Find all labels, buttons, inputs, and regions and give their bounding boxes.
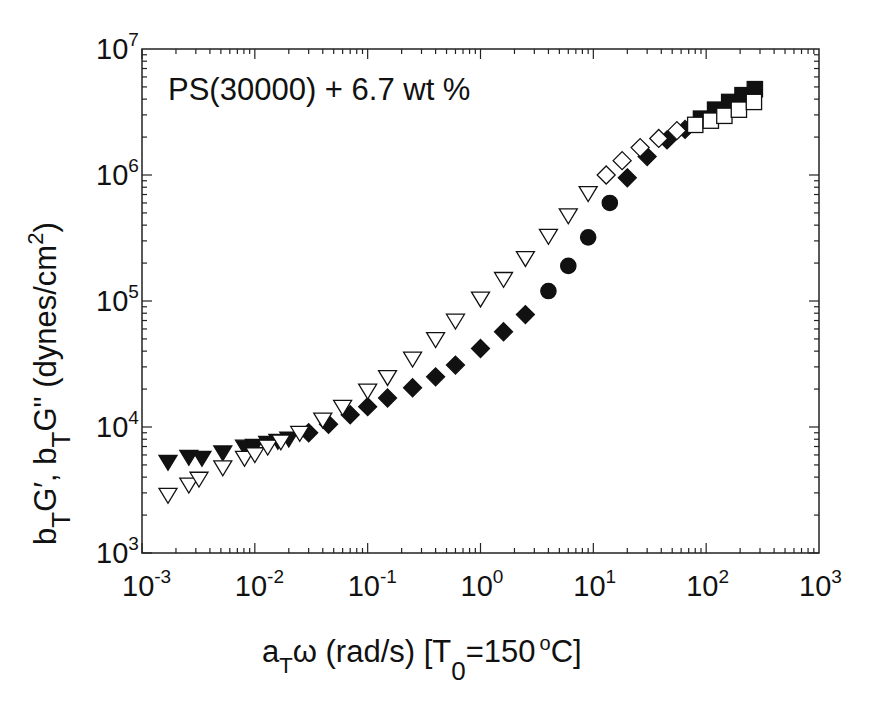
g-double-prime-marker (613, 152, 631, 170)
x-tick-label: 10-2 (235, 566, 284, 602)
chart: 10-310-210-1100101102103 103104105106107… (0, 0, 871, 705)
g-prime-marker (427, 368, 445, 386)
chart-annotation: PS(30000) + 6.7 wt % (168, 72, 470, 107)
y-axis-title: bTG′, bTG" (dynes/cm2) (23, 222, 76, 545)
g-double-prime-marker (717, 108, 732, 123)
g-prime-marker (541, 283, 556, 298)
g-double-prime-marker (495, 273, 513, 288)
g-double-prime-marker (404, 352, 422, 367)
x-tick-label: 100 (461, 566, 504, 602)
g-double-prime-marker (446, 314, 464, 329)
g-prime-marker (159, 455, 177, 470)
x-tick-label: 10-3 (122, 566, 171, 602)
g-double-prime-marker (688, 117, 703, 132)
g-double-prime-marker (159, 488, 177, 503)
g-prime-marker (602, 195, 617, 210)
x-tick-label: 102 (686, 566, 729, 602)
g-double-prime-marker (746, 94, 761, 109)
g-double-prime-marker (427, 333, 445, 348)
x-tick-label: 103 (799, 566, 842, 602)
y-tick-label: 103 (96, 533, 139, 569)
g-prime-marker (581, 230, 596, 245)
g-double-prime-marker (359, 384, 377, 399)
g-prime-marker (561, 258, 576, 273)
x-tick-label: 10-1 (348, 566, 397, 602)
g-prime-marker (404, 379, 422, 397)
g-prime-marker (495, 323, 513, 341)
g-double-prime-marker (597, 166, 615, 184)
x-tick-label: 101 (573, 566, 616, 602)
x-axis-title: aTω (rad/s) [T0=150oC] (262, 632, 582, 686)
g-double-prime-marker (559, 209, 577, 224)
g-prime-marker (214, 446, 232, 461)
data-markers (159, 82, 762, 504)
g-prime-marker (472, 339, 490, 357)
g-prime-marker (193, 451, 211, 466)
y-tick-label: 106 (96, 155, 139, 191)
g-prime-marker (446, 356, 464, 374)
y-tick-label: 107 (96, 29, 139, 65)
g-double-prime-marker (214, 461, 232, 476)
g-prime-marker (618, 169, 636, 187)
g-double-prime-marker (539, 229, 557, 244)
g-double-prime-marker (516, 252, 534, 267)
g-double-prime-marker (579, 187, 597, 202)
g-double-prime-marker (472, 292, 490, 307)
g-prime-marker (379, 389, 397, 407)
y-tick-label: 104 (96, 407, 139, 443)
g-double-prime-marker (731, 102, 746, 117)
g-prime-marker (359, 398, 377, 416)
y-tick-labels: 103104105106107 (96, 29, 139, 569)
g-double-prime-marker (379, 371, 397, 386)
g-prime-marker (516, 306, 534, 324)
y-tick-label: 105 (96, 281, 139, 317)
x-tick-labels: 10-310-210-1100101102103 (122, 566, 842, 602)
